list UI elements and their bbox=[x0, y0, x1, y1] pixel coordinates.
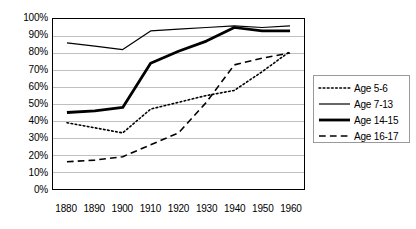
legend-label: Age 14-15 bbox=[354, 115, 398, 126]
x-axis-tick-label: 1910 bbox=[140, 203, 161, 214]
x-axis-tick-label: 1940 bbox=[224, 203, 245, 214]
x-axis-tick-label: 1950 bbox=[252, 203, 273, 214]
x-axis-tick-label: 1920 bbox=[168, 203, 189, 214]
y-axis-tick-label: 10% bbox=[2, 168, 48, 178]
y-axis-tick-label: 0% bbox=[2, 185, 48, 195]
y-axis-tick-label: 60% bbox=[2, 82, 48, 92]
y-axis-tick-label: 40% bbox=[2, 116, 48, 126]
plot-area bbox=[52, 18, 305, 190]
legend-line-swatch-icon bbox=[318, 98, 351, 110]
y-axis-tick-label: 20% bbox=[2, 151, 48, 161]
x-axis-tick-label: 1890 bbox=[83, 203, 104, 214]
legend-line-swatch-icon bbox=[318, 82, 351, 94]
chart-legend: Age 5-6Age 7-13Age 14-15Age 16-17 bbox=[313, 75, 410, 143]
y-axis-tick-label: 70% bbox=[2, 65, 48, 75]
x-axis-tick-label: 1930 bbox=[196, 203, 217, 214]
x-axis-tick-label: 1900 bbox=[112, 203, 133, 214]
legend-label: Age 16-17 bbox=[354, 131, 398, 142]
legend-line-swatch-icon bbox=[318, 114, 351, 126]
y-axis-tick-label: 100% bbox=[2, 13, 48, 23]
y-axis-tick-label: 90% bbox=[2, 30, 48, 40]
data-series-layer bbox=[53, 19, 304, 189]
chart-container: 0%10%20%30%40%50%60%70%80%90%100% 188018… bbox=[0, 0, 416, 229]
y-axis-labels: 0%10%20%30%40%50%60%70%80%90%100% bbox=[0, 0, 48, 229]
legend-item: Age 7-13 bbox=[318, 96, 406, 112]
legend-item: Age 16-17 bbox=[318, 128, 406, 144]
x-axis-labels: 188018901900191019201930194019501960 bbox=[52, 203, 305, 219]
x-axis-tick-label: 1960 bbox=[280, 203, 301, 214]
x-axis-tick-label: 1880 bbox=[55, 203, 76, 214]
legend-item: Age 5-6 bbox=[318, 80, 406, 96]
y-axis-tick-label: 80% bbox=[2, 47, 48, 57]
legend-item: Age 14-15 bbox=[318, 112, 406, 128]
y-axis-tick-label: 50% bbox=[2, 99, 48, 109]
legend-line-swatch-icon bbox=[318, 130, 351, 142]
legend-label: Age 5-6 bbox=[354, 83, 388, 94]
y-axis-tick-label: 30% bbox=[2, 133, 48, 143]
legend-label: Age 7-13 bbox=[354, 99, 393, 110]
